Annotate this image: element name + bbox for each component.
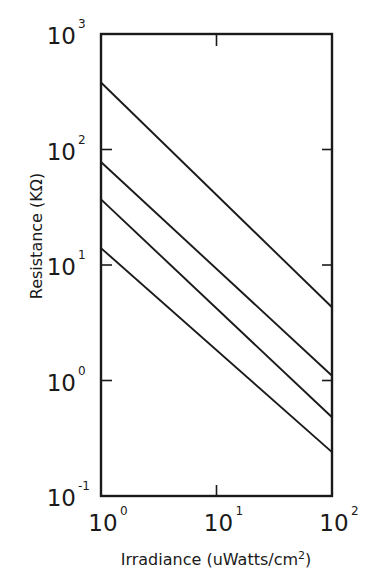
- svg-text:10: 10: [47, 485, 76, 511]
- series-line-3: [101, 199, 332, 417]
- y-tick-labels: 10310210110010-1: [47, 17, 90, 511]
- svg-text:10: 10: [47, 139, 76, 165]
- svg-text:10: 10: [319, 510, 348, 536]
- series-line-4: [101, 248, 332, 452]
- y-axis-label: Resistance (KΩ): [27, 173, 46, 300]
- svg-text:2: 2: [78, 133, 86, 147]
- x-tick-label-1: 101: [204, 504, 243, 536]
- y-tick-label-0: 103: [47, 17, 86, 49]
- svg-text:10: 10: [47, 370, 76, 396]
- svg-text:10: 10: [88, 510, 117, 536]
- svg-text:1: 1: [236, 504, 244, 518]
- svg-text:0: 0: [120, 504, 128, 518]
- data-lines: [101, 83, 332, 453]
- svg-text:10: 10: [204, 510, 233, 536]
- x-tick-labels: 100101102: [88, 504, 358, 536]
- svg-text:3: 3: [78, 17, 86, 31]
- y-tick-label-4: 10-1: [47, 479, 90, 511]
- y-tick-label-3: 100: [47, 364, 86, 396]
- svg-text:10: 10: [47, 23, 76, 49]
- x-axis-label: Irradiance (uWatts/cm2): [121, 549, 312, 569]
- svg-text:10: 10: [47, 254, 76, 280]
- y-tick-label-1: 102: [47, 133, 86, 165]
- svg-text:1: 1: [78, 248, 86, 262]
- chart: 100101102 10310210110010-1 Irradiance (u…: [0, 0, 371, 588]
- x-tick-label-2: 102: [319, 504, 358, 536]
- x-tick-label-0: 100: [88, 504, 127, 536]
- svg-text:0: 0: [78, 364, 86, 378]
- svg-text:-1: -1: [78, 479, 90, 493]
- plot-border: [101, 34, 332, 496]
- svg-text:2: 2: [351, 504, 359, 518]
- plot-frame: [101, 34, 332, 496]
- axis-ticks: [101, 34, 332, 496]
- y-tick-label-2: 101: [47, 248, 86, 280]
